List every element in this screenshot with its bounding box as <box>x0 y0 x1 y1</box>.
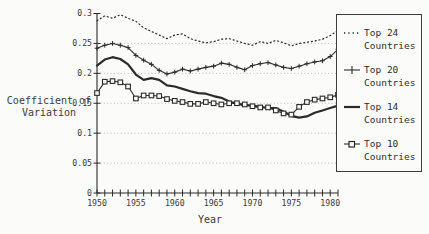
series-marker-square <box>126 84 131 89</box>
y-tick-label: 0.3 <box>77 8 92 18</box>
y-tick-label: 0 <box>87 188 92 198</box>
x-axis-title: Year <box>160 214 260 225</box>
legend-label-top-20: Top 20 Countries <box>364 63 417 89</box>
series-marker-square <box>297 105 302 110</box>
legend-label-top-14: Top 14 Countries <box>364 100 417 126</box>
legend-box: Top 24 Countries Top 20 Countries Top 14… <box>336 14 422 172</box>
plus-line-icon <box>343 65 361 75</box>
series-marker-square <box>250 104 255 109</box>
legend-item-top-10: Top 10 Countries <box>343 137 417 163</box>
y-tick-label: 0.2 <box>77 68 92 78</box>
x-tick-label: 1950 <box>87 198 107 208</box>
legend-item-top-24: Top 24 Countries <box>343 26 417 52</box>
x-tick-label: 1955 <box>126 198 146 208</box>
series-marker-square <box>242 102 247 107</box>
y-tick-label: 0.05 <box>72 158 92 168</box>
series-marker-square <box>157 94 162 99</box>
x-tick-label: 1960 <box>165 198 185 208</box>
legend-label-top-24: Top 24 Countries <box>364 26 417 52</box>
series-marker-square <box>289 112 294 117</box>
series-marker-square <box>102 79 107 84</box>
series-marker-square <box>219 102 224 107</box>
series-marker-square <box>134 96 139 101</box>
series-marker-square <box>188 102 193 107</box>
series-marker-square <box>274 108 279 113</box>
series-marker-square <box>266 105 271 110</box>
series-marker-square <box>281 111 286 116</box>
series-marker-square <box>258 105 263 110</box>
legend-item-top-14: Top 14 Countries <box>343 100 417 126</box>
series-marker-square <box>141 93 146 98</box>
series-line-top-24-countries <box>97 15 338 46</box>
series-marker-square <box>204 100 209 105</box>
legend-label-top-10: Top 10 Countries <box>364 137 417 163</box>
legend-item-top-20: Top 20 Countries <box>343 63 417 89</box>
series-marker-square <box>110 79 115 84</box>
series-marker-square <box>328 95 333 100</box>
dotted-line-icon <box>343 28 361 38</box>
series-marker-square <box>196 102 201 107</box>
series-markers-plus <box>95 41 341 76</box>
series-marker-square <box>165 97 170 102</box>
x-tick-label: 1975 <box>281 198 301 208</box>
series-marker-square <box>235 101 240 106</box>
series-marker-square <box>149 93 154 98</box>
y-axis-title: Coefficient of Variation <box>6 95 92 119</box>
series-marker-square <box>211 101 216 106</box>
chart-figure: 00.050.10.150.20.250.3195019551960196519… <box>0 0 429 234</box>
x-tick-label: 1970 <box>243 198 263 208</box>
series-marker-square <box>95 91 100 96</box>
x-tick-label: 1965 <box>204 198 224 208</box>
series-marker-square <box>172 99 177 104</box>
series-marker-square <box>305 100 310 105</box>
y-tick-label: 0.1 <box>77 128 92 138</box>
solid-line-icon <box>343 102 361 112</box>
series-marker-square <box>320 96 325 101</box>
series-marker-square <box>118 80 123 85</box>
series-marker-square <box>227 101 232 106</box>
x-tick-label: 1980 <box>320 198 340 208</box>
square-line-icon <box>343 139 361 149</box>
series-marker-square <box>312 97 317 102</box>
series-marker-square <box>180 100 185 105</box>
y-tick-label: 0.25 <box>72 38 92 48</box>
